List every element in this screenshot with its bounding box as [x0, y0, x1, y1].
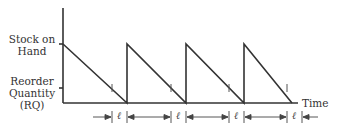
label-line: (RQ) [6, 99, 58, 111]
lead-time-label: ℓ [292, 110, 296, 121]
stock-level-line [63, 44, 292, 103]
stock-on-hand-label: Stock on Hand [6, 33, 58, 57]
reorder-quantity-label: Reorder Quantity (RQ) [6, 75, 58, 111]
lead-time-label: ℓ [234, 110, 238, 121]
time-axis-label: Time [302, 97, 338, 109]
label-line: Hand [6, 45, 58, 57]
lead-time-label: ℓ [117, 110, 121, 121]
lead-time-label: ℓ [176, 110, 180, 121]
inventory-diagram: Stock on Hand Reorder Quantity (RQ) Time… [0, 0, 360, 132]
label-line: Quantity [6, 87, 58, 99]
label-line: Stock on [6, 33, 58, 45]
label-line: Reorder [6, 75, 58, 87]
